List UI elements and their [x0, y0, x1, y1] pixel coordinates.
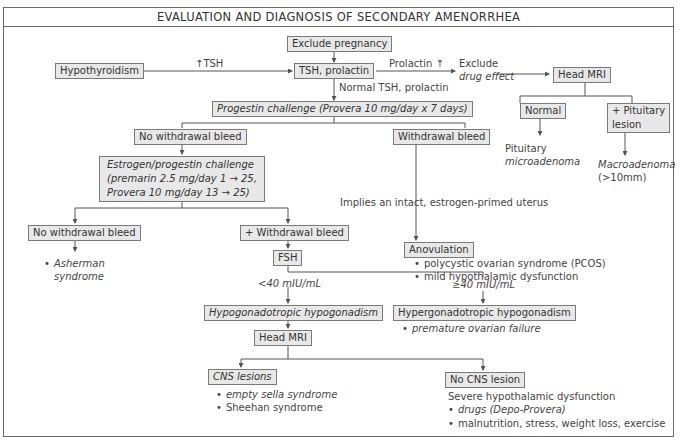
no-cns-item-malnutrition: malnutrition, stress, weight loss, exerc… — [448, 417, 665, 430]
macroadenoma-label: Macroadenoma — [598, 158, 675, 171]
ep-challenge-line3: Provera 10 mg/day 13 → 25) — [107, 186, 257, 200]
bullet — [448, 418, 458, 429]
normal-tsh-prolactin-label: Normal TSH, prolactin — [339, 81, 449, 94]
asherman-label-line2: syndrome — [54, 270, 104, 283]
fsh-box: FSH — [273, 250, 302, 266]
no-cns-item-drugs: drugs (Depo-Provera) — [448, 403, 566, 416]
bullet — [216, 402, 226, 413]
microadenoma-label: microadenoma — [505, 155, 580, 168]
no-withdrawal-bleed-box-2: No withdrawal bleed — [28, 225, 141, 241]
hypergonadotropic-box: Hypergonadotropic hypogonadism — [393, 305, 576, 321]
exclude-drug-effect-line1: Exclude — [459, 57, 498, 70]
ep-challenge-line2: (premarin 2.5 mg/day 1 → 25, — [107, 172, 257, 186]
pituitary-label: Pituitary — [505, 142, 547, 155]
bullet — [44, 258, 54, 269]
estrogen-progestin-challenge-box: Estrogen/progestin challenge (premarin 2… — [99, 156, 265, 202]
bullet — [216, 389, 226, 400]
normal-box: Normal — [520, 103, 566, 119]
pituitary-lesion-line2: lesion — [612, 118, 665, 132]
cns-item-empty-sella: empty sella syndrome — [216, 388, 337, 401]
exclude-drug-effect-line2: drug effect — [459, 70, 514, 83]
anovulation-item-pcos: polycystic ovarian syndrome (PCOS) — [414, 257, 606, 270]
ep-challenge-line1: Estrogen/progestin challenge — [107, 158, 257, 172]
no-withdrawal-bleed-box-1: No withdrawal bleed — [134, 129, 247, 145]
bullet — [448, 404, 458, 415]
plus-withdrawal-bleed-box: + Withdrawal bleed — [240, 225, 349, 241]
head-mri-top-box: Head MRI — [553, 67, 611, 83]
bullet — [414, 271, 424, 282]
high-tsh-label: ↑TSH — [195, 57, 223, 70]
anovulation-box: Anovulation — [404, 242, 474, 258]
implies-uterus-label: Implies an intact, estrogen-primed uteru… — [340, 196, 548, 209]
hypothyroidism-box: Hypothyroidism — [55, 63, 144, 79]
bullet — [414, 258, 424, 269]
pituitary-lesion-line1: + Pituitary — [612, 104, 665, 118]
fsh-low-label: <40 mIU/mL — [258, 277, 321, 290]
bullet — [402, 323, 412, 334]
progestin-challenge-box: Progestin challenge (Provera 10 mg/day x… — [212, 101, 473, 117]
hypogonadotropic-box: Hypogonadotropic hypogonadism — [204, 305, 383, 321]
severe-hypothalamic-label: Severe hypothalamic dysfunction — [448, 390, 615, 403]
cns-item-sheehan: Sheehan syndrome — [216, 401, 323, 414]
tsh-prolactin-box: TSH, prolactin — [294, 63, 374, 79]
exclude-pregnancy-box: Exclude pregnancy — [287, 36, 392, 52]
fsh-high-label: ≥40 mIU/mL — [452, 278, 515, 291]
asherman-label: Asherman — [44, 257, 105, 270]
hypergonadotropic-item: premature ovarian failure — [402, 322, 541, 335]
prolactin-high-label: Prolactin ↑ — [389, 57, 444, 70]
pituitary-lesion-box: + Pituitary lesion — [607, 103, 670, 133]
macroadenoma-size-label: (>10mm) — [598, 171, 646, 184]
head-mri-bottom-box: Head MRI — [254, 330, 312, 346]
withdrawal-bleed-box: Withdrawal bleed — [393, 129, 490, 145]
cns-lesions-box: CNS lesions — [208, 369, 277, 385]
no-cns-lesion-box: No CNS lesion — [445, 372, 525, 388]
